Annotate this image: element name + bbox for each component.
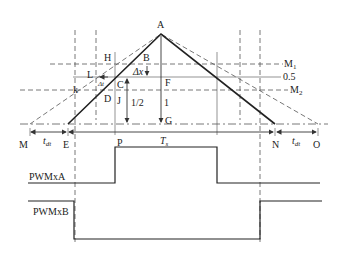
- label-c: C: [117, 79, 124, 90]
- signal-pwm-b: [28, 201, 322, 239]
- carrier-dashed-triangle: [30, 34, 318, 124]
- label-one-half: 1/2: [131, 97, 144, 108]
- label-half-level: 0.5: [283, 71, 296, 82]
- label-b: B: [143, 52, 150, 63]
- label-n: N: [272, 139, 279, 150]
- label-tdt-left: tdt: [43, 135, 52, 148]
- label-k: k: [73, 84, 78, 95]
- label-m: M: [19, 139, 28, 150]
- pwm-deadtime-diagram: A B C D E F G H J L k M N O P M1 0.5 M2 …: [0, 0, 342, 253]
- label-e: E: [63, 139, 69, 150]
- label-o: O: [313, 139, 320, 150]
- label-one: 1: [164, 97, 169, 108]
- vertical-guides: [75, 30, 260, 242]
- label-a: A: [157, 19, 165, 30]
- label-h: H: [104, 52, 111, 63]
- label-g: G: [165, 115, 172, 126]
- carrier-solid-triangle: [68, 34, 275, 124]
- label-pwm-b: PWMxB: [33, 206, 69, 217]
- signal-pwm-a: [28, 147, 320, 183]
- label-f: F: [165, 77, 171, 88]
- label-ts: Ts: [160, 135, 169, 148]
- label-p: P: [117, 137, 123, 148]
- label-d: D: [104, 93, 111, 104]
- label-m2: M2: [290, 84, 303, 97]
- label-delta-t: Δt: [97, 80, 105, 88]
- label-delta-x: Δx: [132, 66, 144, 77]
- label-tdt-right: tdt: [292, 135, 301, 148]
- label-l: L: [87, 69, 93, 80]
- label-j: J: [117, 95, 121, 106]
- label-m1: M1: [284, 58, 297, 71]
- label-pwm-a: PWMxA: [29, 171, 66, 182]
